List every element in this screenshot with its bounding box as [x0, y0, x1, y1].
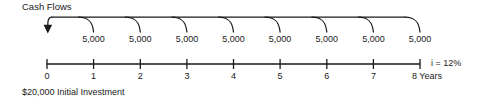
arrow-head-icon — [44, 25, 53, 34]
cashflow-amount-year-7: 5,000 — [362, 35, 385, 44]
period-label-8-years: 8 Years — [412, 72, 442, 81]
period-label-3: 3 — [184, 72, 189, 81]
cashflow-amount-year-8: 5,000 — [409, 35, 432, 44]
cashflow-arrow-group — [48, 17, 420, 32]
cashflow-branch-year-5 — [219, 17, 234, 32]
cashflow-branch-year-3 — [312, 17, 327, 32]
period-label-4: 4 — [231, 72, 236, 81]
period-label-2: 2 — [138, 72, 143, 81]
period-label-0: 0 — [44, 72, 49, 81]
cashflow-amount-year-5: 5,000 — [269, 35, 292, 44]
cashflow-amount-year-2: 5,000 — [129, 35, 152, 44]
cash-flows-title: Cash Flows — [22, 2, 72, 12]
cashflow-branch-year-4 — [265, 17, 280, 32]
cashflow-amount-year-1: 5,000 — [82, 35, 105, 44]
period-label-7: 7 — [371, 72, 376, 81]
cashflow-branch-year-1 — [405, 17, 420, 32]
cashflow-amount-year-6: 5,000 — [316, 35, 339, 44]
cashflow-branch-year-8 — [79, 17, 94, 32]
cash-flow-timeline-diagram: Cash Flows 5,000 5,000 5,000 5,000 5,000… — [0, 0, 477, 104]
cashflow-branch-year-6 — [172, 17, 187, 32]
interest-rate-label: i = 12% — [431, 59, 461, 68]
cashflow-branch-year-2 — [358, 17, 373, 32]
period-label-5: 5 — [278, 72, 283, 81]
period-label-1: 1 — [91, 72, 96, 81]
cashflow-amount-year-3: 5,000 — [176, 35, 199, 44]
cashflow-branch-year-7 — [125, 17, 140, 32]
period-label-6: 6 — [324, 72, 329, 81]
cashflow-amount-year-4: 5,000 — [222, 35, 245, 44]
initial-investment-label: $20,000 Initial Investment — [22, 88, 125, 97]
